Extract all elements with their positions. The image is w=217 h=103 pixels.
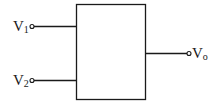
input-terminal-v1: V1 <box>13 18 77 35</box>
input-terminal-v2: V2 <box>13 72 77 89</box>
terminal-circle-icon <box>187 52 191 56</box>
terminal-circle-icon <box>30 79 34 83</box>
terminal-circle-icon <box>30 25 34 29</box>
output-terminal-vo: Vo <box>146 45 208 62</box>
input-label-v1: V1 <box>13 18 29 35</box>
output-label-vo: Vo <box>192 45 208 62</box>
input-label-v2: V2 <box>13 72 29 89</box>
block-box <box>77 5 146 100</box>
block-diagram: V1 V2 Vo <box>0 0 217 103</box>
